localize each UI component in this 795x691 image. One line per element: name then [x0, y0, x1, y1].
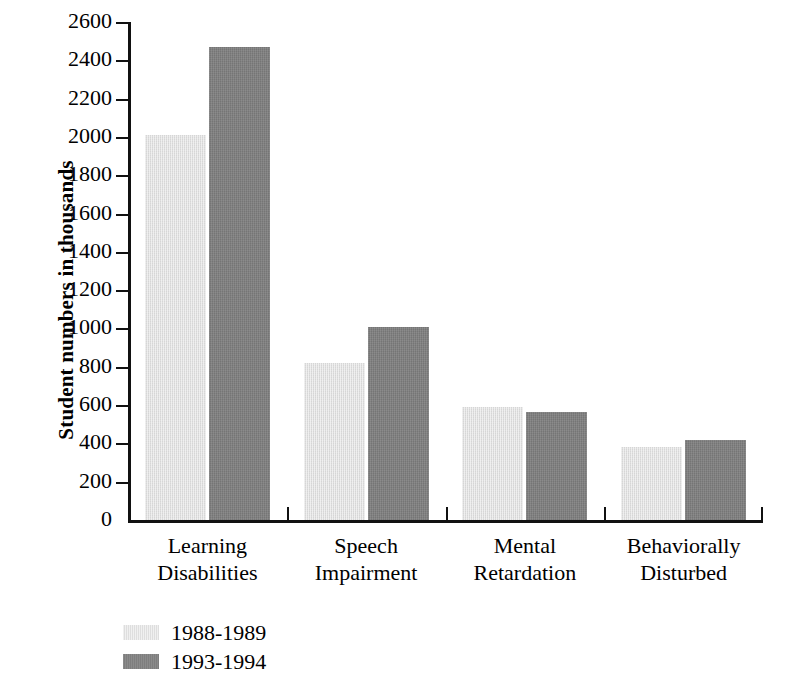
category-label-line: Speech [334, 533, 398, 558]
category-label: MentalRetardation [446, 532, 605, 586]
bar-series1 [145, 135, 206, 520]
y-tick-label: 200 [42, 468, 112, 494]
category-label-line: Impairment [287, 559, 446, 586]
y-tick-label: 1400 [42, 238, 112, 264]
plot-area: 0200400600800100012001400160018002000220… [128, 22, 763, 523]
legend-label: 1993-1994 [171, 650, 266, 674]
y-axis-line [128, 22, 131, 523]
y-tick-mark [116, 60, 128, 62]
category-label-line: Retardation [446, 559, 605, 586]
y-tick-mark [116, 137, 128, 139]
category-label: BehaviorallyDisturbed [604, 532, 763, 586]
category-tick [761, 507, 763, 523]
y-tick-label: 2000 [42, 123, 112, 149]
legend-item: 1993-1994 [123, 647, 266, 676]
category-label-line: Disabilities [128, 559, 287, 586]
y-tick-label: 1800 [42, 161, 112, 187]
category-label: SpeechImpairment [287, 532, 446, 586]
y-tick-mark [116, 367, 128, 369]
y-tick-mark [116, 214, 128, 216]
y-tick-label: 2200 [42, 85, 112, 111]
bar-series2 [368, 327, 429, 520]
y-tick-mark [116, 22, 128, 24]
legend-item: 1988-1989 [123, 618, 266, 647]
y-tick-label: 0 [42, 506, 112, 532]
bar-series1 [621, 447, 682, 520]
bar-series1 [304, 363, 365, 520]
category-tick [287, 507, 289, 523]
y-tick-label: 400 [42, 429, 112, 455]
bar-series2 [526, 412, 587, 520]
category-label: LearningDisabilities [128, 532, 287, 586]
y-tick-label: 600 [42, 391, 112, 417]
y-tick-mark [116, 175, 128, 177]
legend: 1988-19891993-1994 [123, 618, 266, 676]
category-tick [604, 507, 606, 523]
y-tick-mark [116, 405, 128, 407]
y-tick-mark [116, 443, 128, 445]
y-tick-mark [116, 482, 128, 484]
legend-swatch [123, 654, 159, 669]
y-tick-label: 1000 [42, 314, 112, 340]
y-tick-mark [116, 252, 128, 254]
bar-series1 [462, 407, 523, 520]
y-tick-mark [116, 328, 128, 330]
bar-series2 [209, 47, 270, 520]
category-label-line: Learning [168, 533, 247, 558]
y-tick-mark [116, 290, 128, 292]
y-tick-mark [116, 99, 128, 101]
category-tick [446, 507, 448, 523]
y-tick-label: 1600 [42, 200, 112, 226]
y-tick-label: 800 [42, 353, 112, 379]
category-label-line: Mental [494, 533, 556, 558]
y-tick-label: 2400 [42, 46, 112, 72]
category-label-line: Disturbed [604, 559, 763, 586]
legend-swatch [123, 625, 159, 640]
legend-label: 1988-1989 [171, 621, 266, 645]
y-tick-label: 2600 [42, 8, 112, 34]
bar-series2 [685, 440, 746, 520]
y-tick-label: 1200 [42, 276, 112, 302]
category-label-line: Behaviorally [627, 533, 741, 558]
bar-chart-figure: Student numbers in thousands 02004006008… [0, 0, 795, 691]
